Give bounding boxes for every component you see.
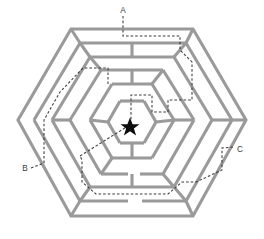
spoke-r2r3-upper-left [80, 43, 90, 57]
spoke-r3r4-lower-right [163, 174, 174, 187]
entrance-label-b: B [22, 164, 28, 173]
spoke-r2r3-lower-right [174, 187, 186, 201]
spoke-r5r6-right [156, 120, 174, 122]
goal-star-group [121, 118, 140, 136]
spoke-r5r6-left [90, 120, 108, 122]
wall-r6-bottomright [144, 122, 156, 143]
wall-r5-topleft [90, 84, 112, 120]
spoke-r2r3-lower-left [80, 187, 90, 201]
spoke-r1r2-top-left [71, 29, 80, 43]
maze-ring-6-inner [108, 101, 156, 143]
star-goal [121, 118, 140, 136]
spoke-r1r2-bottom-right [186, 201, 193, 216]
hexagonal-maze-figure: A B C [0, 0, 264, 239]
wall-r3-topleft [52, 57, 90, 120]
wall-r6-bottomleft [108, 122, 120, 143]
wall-r5-topright [152, 84, 174, 120]
wall-r3-topright [174, 57, 212, 120]
spoke-r1r2-top-right [186, 29, 193, 43]
spoke-r1r2-bottom-left [71, 201, 80, 216]
entrance-label-a: A [120, 6, 126, 15]
spoke-r4r5-upper-right [152, 70, 163, 84]
maze-canvas: A B C [0, 0, 264, 239]
wall-r3-bottomright [174, 120, 212, 187]
spoke-r4r5-lower-left [101, 158, 112, 174]
entrance-label-c: C [237, 145, 243, 154]
wall-r6-topleft [108, 101, 120, 122]
